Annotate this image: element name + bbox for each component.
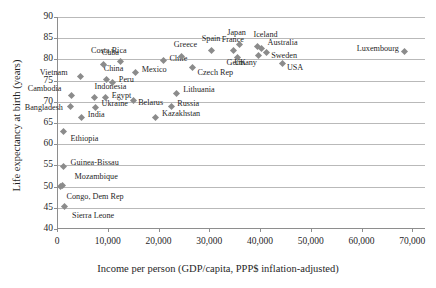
- x-tick-label: 10,000: [95, 236, 121, 246]
- y-tick-label: 85: [23, 33, 53, 43]
- y-tick-mark: [54, 38, 58, 39]
- x-tick-mark: [57, 228, 58, 232]
- data-point-label: Lithuania: [183, 86, 214, 94]
- plot-area: 4045505560657075808590010,00020,00030,00…: [57, 17, 425, 229]
- data-point-label: Ukraine: [102, 100, 128, 108]
- y-tick-label: 55: [23, 160, 53, 170]
- y-tick-mark: [54, 81, 58, 82]
- data-point: [60, 163, 67, 170]
- x-tick-label: 70,000: [399, 236, 425, 246]
- data-point: [279, 60, 286, 67]
- x-tick-label: 0: [55, 236, 60, 246]
- data-point: [132, 69, 139, 76]
- data-point: [61, 203, 68, 210]
- data-point-label: USA: [287, 64, 303, 72]
- data-point-label: Congo, Dem Rep: [67, 193, 124, 201]
- y-tick-label: 65: [23, 118, 53, 128]
- y-tick-label: 50: [23, 182, 53, 192]
- data-point: [173, 90, 180, 97]
- x-tick-mark: [159, 228, 160, 232]
- x-tick-mark: [412, 228, 413, 232]
- x-tick-mark: [362, 228, 363, 232]
- data-point-label: Bangladesh: [25, 104, 63, 112]
- y-tick-mark: [54, 17, 58, 18]
- data-point: [91, 94, 98, 101]
- data-point-label: Cambodia: [28, 85, 62, 93]
- data-point: [77, 73, 84, 80]
- y-tick-label: 90: [23, 12, 53, 22]
- data-point-label: Australia: [268, 39, 298, 47]
- x-tick-mark: [108, 228, 109, 232]
- data-point-label: Japan: [227, 29, 246, 37]
- data-point-label: Luxembourg: [357, 45, 399, 53]
- data-point-label: Peru: [119, 76, 134, 84]
- data-point: [189, 64, 196, 71]
- y-tick-label: 60: [23, 139, 53, 149]
- y-tick-mark: [54, 59, 58, 60]
- data-point-label: Costa Rica: [91, 47, 127, 55]
- chart-canvas: Life expectancy at birth (years) Income …: [0, 0, 436, 288]
- y-gridline: [57, 187, 425, 188]
- y-axis-title: Life expectancy at birth (years): [11, 26, 22, 226]
- x-tick-mark: [311, 228, 312, 232]
- data-point-label: Vietnam: [40, 69, 68, 77]
- data-point-label: Kazakhstan: [162, 110, 200, 118]
- y-tick-mark: [54, 123, 58, 124]
- x-tick-label: 20,000: [145, 236, 171, 246]
- data-point-label: Germany: [227, 59, 257, 67]
- x-axis-line: [57, 228, 425, 229]
- x-tick-label: 30,000: [196, 236, 222, 246]
- data-point: [68, 92, 75, 99]
- data-point-label: Ethiopia: [71, 135, 99, 143]
- data-point: [208, 47, 215, 54]
- y-gridline: [57, 144, 425, 145]
- data-point-label: China: [104, 65, 124, 73]
- y-tick-label: 40: [23, 224, 53, 234]
- data-point-label: Greece: [174, 41, 197, 49]
- x-axis-title: Income per person (GDP/capita, PPP$ infl…: [0, 263, 436, 274]
- x-tick-mark: [260, 228, 261, 232]
- y-tick-label: 80: [23, 54, 53, 64]
- data-point: [130, 97, 137, 104]
- x-tick-label: 40,000: [247, 236, 273, 246]
- y-gridline: [57, 123, 425, 124]
- data-point-label: Belarus: [138, 99, 163, 107]
- x-tick-mark: [209, 228, 210, 232]
- data-point-label: Spain: [202, 35, 221, 43]
- data-point-label: Mexico: [142, 66, 167, 74]
- data-point-label: Guinea-Bissau: [71, 159, 119, 167]
- data-point-label: Sweden: [271, 52, 297, 60]
- data-point: [67, 103, 74, 110]
- x-tick-label: 60,000: [348, 236, 374, 246]
- x-tick-label: 50,000: [298, 236, 324, 246]
- y-tick-mark: [54, 208, 58, 209]
- data-point: [401, 48, 408, 55]
- data-point: [152, 114, 159, 121]
- data-point-label: Czech Rep: [198, 69, 234, 77]
- data-point: [78, 114, 85, 121]
- y-tick-mark: [54, 165, 58, 166]
- data-point-label: Mozambique: [75, 173, 118, 181]
- data-point-label: Sierra Leone: [72, 212, 114, 220]
- data-point: [60, 128, 67, 135]
- data-point: [160, 57, 167, 64]
- y-gridline: [57, 208, 425, 209]
- y-tick-mark: [54, 144, 58, 145]
- data-point-label: India: [88, 111, 105, 119]
- data-point-label: Russia: [177, 100, 199, 108]
- data-point-label: Egypt: [112, 92, 132, 100]
- y-gridline: [57, 17, 425, 18]
- y-tick-label: 45: [23, 203, 53, 213]
